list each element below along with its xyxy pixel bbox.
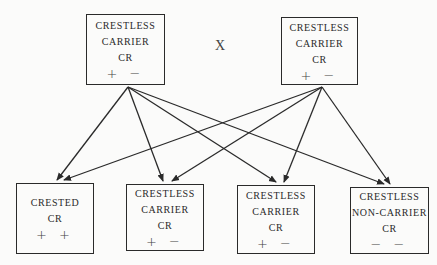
parent-box-left: CRESTLESS CARRIER CR + −	[86, 14, 165, 85]
phenotype-line-1: CRESTLESS	[246, 188, 306, 204]
arrow-p1-o1	[57, 87, 128, 180]
phenotype-line-1: CRESTLESS	[135, 186, 195, 202]
phenotype-line-2: CARRIER	[252, 204, 300, 220]
offspring-box-non-carrier: CRESTLESS NON-CARRIER CR − −	[350, 187, 429, 254]
cross-symbol: X	[215, 38, 225, 54]
phenotype-line-1: CRESTLESS	[290, 20, 350, 36]
phenotype-line-1: CRESTLESS	[360, 189, 420, 205]
phenotype-line-2: CARRIER	[296, 36, 344, 52]
gene-label: CR	[48, 211, 63, 227]
arrow-p1-o2	[128, 87, 163, 181]
phenotype-line-2: CARRIER	[141, 202, 189, 218]
phenotype-line-1: CRESTED	[31, 195, 80, 211]
gene-label: CR	[118, 50, 133, 66]
genotype: + −	[301, 68, 339, 83]
genotype: + −	[107, 66, 145, 81]
offspring-box-carrier-2: CRESTLESS CARRIER CR + −	[237, 185, 315, 254]
parent-box-right: CRESTLESS CARRIER CR + −	[281, 17, 358, 85]
genotype: + −	[257, 236, 295, 251]
genotype: + −	[146, 234, 184, 249]
genotype: + +	[36, 227, 74, 242]
phenotype-line-1: CRESTLESS	[96, 18, 156, 34]
arrow-p2-o2	[172, 87, 322, 181]
gene-label: CR	[312, 52, 327, 68]
gene-label: CR	[382, 221, 397, 237]
arrow-p2-o1	[64, 87, 322, 180]
genotype: − −	[371, 237, 409, 252]
gene-label: CR	[158, 218, 173, 234]
offspring-box-crested: CRESTED CR + +	[16, 183, 94, 254]
phenotype-line-2: CARRIER	[102, 34, 150, 50]
offspring-box-carrier-1: CRESTLESS CARRIER CR + −	[126, 184, 204, 251]
phenotype-line-2: NON-CARRIER	[352, 205, 427, 221]
arrow-p2-o3	[284, 87, 322, 182]
gene-label: CR	[269, 220, 284, 236]
arrow-p2-o4	[322, 87, 390, 184]
